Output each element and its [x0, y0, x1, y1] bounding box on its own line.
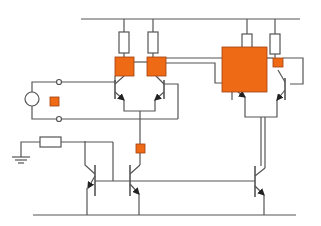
highlight-block-q1 — [115, 57, 134, 76]
resistor-r1 — [119, 32, 129, 53]
resistor-r3 — [242, 34, 252, 48]
highlight-block-large — [222, 47, 267, 92]
voltage-source-icon — [25, 92, 39, 106]
terminal-top-icon — [57, 80, 62, 85]
highlight-block-input — [50, 97, 59, 106]
resistor-ground — [40, 137, 61, 147]
resistor-r4 — [270, 34, 280, 54]
circuit-diagram — [0, 0, 321, 226]
highlight-block-small-right — [273, 58, 283, 67]
schematic-svg — [0, 0, 321, 226]
terminal-bottom-icon — [57, 117, 62, 122]
highlight-block-tail — [136, 144, 145, 153]
resistor-r2 — [148, 32, 158, 53]
highlight-block-q2 — [147, 57, 166, 76]
